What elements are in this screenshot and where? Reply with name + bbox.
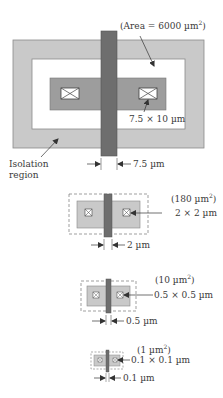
contact-icon bbox=[61, 88, 79, 99]
gate bbox=[101, 31, 117, 156]
gate-length-label-large: 7.5 µm bbox=[133, 159, 165, 169]
contact-size-label-large: 7.5 × 10 µm bbox=[129, 114, 185, 124]
gate bbox=[106, 279, 111, 313]
contact-icon bbox=[85, 209, 92, 216]
gate bbox=[106, 350, 109, 372]
gate-length-label-tiny: 0.1 µm bbox=[123, 373, 155, 383]
gate bbox=[104, 194, 112, 237]
area-label-large: (Area = 6000 µm2) bbox=[120, 21, 206, 31]
contact-size-label-small: 0.5 × 0.5 µm bbox=[154, 290, 213, 300]
contact-icon bbox=[139, 88, 157, 99]
contact-icon bbox=[93, 292, 99, 298]
contact-icon bbox=[123, 209, 130, 216]
gate-length-label-small: 0.5 µm bbox=[126, 316, 158, 326]
contact-size-label-tiny: 0.1 × 0.1 µm bbox=[131, 355, 190, 365]
area-label-small: (10 µm2) bbox=[155, 275, 195, 285]
contact-icon bbox=[113, 358, 117, 362]
contact-icon bbox=[117, 292, 123, 298]
device-large bbox=[13, 31, 204, 170]
gate-length-label-medium: 2 µm bbox=[127, 240, 150, 250]
isolation-label-line1: Isolation bbox=[9, 159, 49, 169]
isolation-label-line2: region bbox=[9, 170, 38, 180]
contact-size-label-medium: 2 × 2 µm bbox=[175, 208, 217, 218]
contact-icon bbox=[98, 358, 102, 362]
area-label-tiny: (1 µm2) bbox=[137, 345, 171, 355]
area-label-medium: (180 µm2) bbox=[171, 194, 216, 204]
